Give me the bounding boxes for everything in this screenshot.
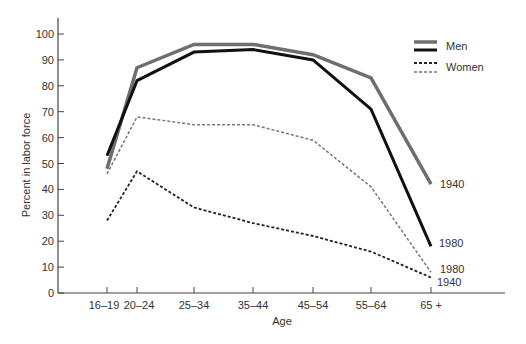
y-tick-label: 90 (42, 54, 54, 66)
y-axis-title: Percent in labor force (20, 113, 32, 218)
legend: Men Women (414, 40, 484, 73)
y-tick-label: 100 (36, 28, 54, 40)
y-tick-label: 70 (42, 106, 54, 118)
y-tick-label: 30 (42, 209, 54, 221)
legend-label-men: Men (446, 40, 467, 52)
x-tick-label: 20–24 (124, 299, 155, 311)
y-tick-label: 60 (42, 132, 54, 144)
x-tick-label: 35–44 (238, 299, 269, 311)
x-tick-label: 45–54 (298, 299, 329, 311)
chart-canvas: 0102030405060708090100 16–1920–2425–3435… (0, 0, 526, 344)
y-tick-label: 40 (42, 183, 54, 195)
x-axis-title: Age (272, 315, 292, 327)
y-tick-label: 10 (42, 261, 54, 273)
x-axis: 16–1920–2425–3435–4445–5455–6465 + (58, 287, 505, 311)
x-tick-label: 65 + (420, 299, 442, 311)
x-tick-label: 25–34 (179, 299, 210, 311)
series-line-women-1940 (107, 171, 431, 277)
series-line-men-1940 (107, 44, 431, 184)
series-line-men-1980 (107, 50, 431, 247)
end-label-women-1940: 1940 (437, 276, 461, 288)
y-tick-label: 80 (42, 80, 54, 92)
end-label-men-1940: 1940 (440, 178, 464, 190)
y-tick-label: 50 (42, 158, 54, 170)
end-label-women-1980: 1980 (440, 263, 464, 275)
y-tick-label: 20 (42, 235, 54, 247)
y-axis: 0102030405060708090100 (36, 18, 64, 299)
series-layer (107, 44, 431, 277)
series-end-labels: 1940198019801940 (437, 178, 464, 288)
x-tick-label: 16–19 (89, 299, 120, 311)
end-label-men-1980: 1980 (439, 237, 463, 249)
legend-label-women: Women (446, 61, 484, 73)
series-line-women-1980 (107, 117, 431, 272)
y-tick-label: 0 (48, 287, 54, 299)
labor-force-chart: 0102030405060708090100 16–1920–2425–3435… (0, 0, 526, 344)
x-tick-label: 55–64 (356, 299, 387, 311)
